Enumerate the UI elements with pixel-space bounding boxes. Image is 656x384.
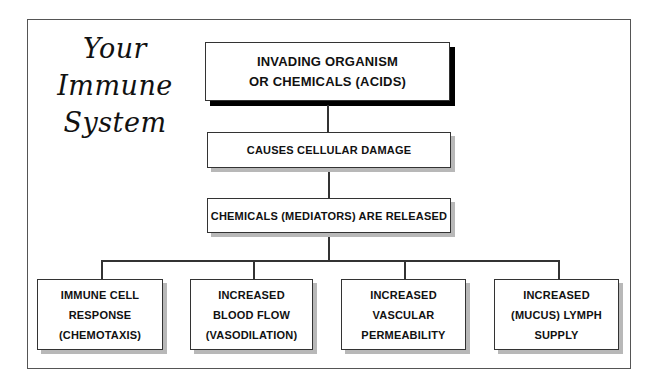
title-line: System (50, 104, 180, 141)
connector-line (404, 260, 406, 279)
outcome-box-vasodilation: INCREASED BLOOD FLOW (VASODILATION) (190, 279, 313, 350)
box-label-line: RESPONSE (69, 305, 132, 325)
outcome-box-lymph-supply: INCREASED (MUCUS) LYMPH SUPPLY (494, 279, 619, 350)
box-label-line: OR CHEMICALS (ACIDS) (249, 72, 406, 92)
box-label-line: INCREASED (218, 285, 285, 305)
invading-organism-box: INVADING ORGANISM OR CHEMICALS (ACIDS) (205, 42, 450, 101)
outcome-box-chemotaxis: IMMUNE CELL RESPONSE (CHEMOTAXIS) (37, 279, 163, 350)
diagram-title: Your Immune System (50, 30, 180, 141)
connector-line (327, 105, 329, 132)
cellular-damage-box: CAUSES CELLULAR DAMAGE (207, 132, 451, 168)
connector-line (328, 237, 330, 261)
box-label-line: SUPPLY (534, 325, 578, 345)
box-label: CAUSES CELLULAR DAMAGE (247, 140, 412, 160)
box-label-line: (MUCUS) LYMPH (511, 305, 602, 325)
box-label-line: INCREASED (370, 285, 437, 305)
title-line: Immune (50, 67, 180, 104)
connector-line (328, 172, 330, 198)
box-label-line: BLOOD FLOW (213, 305, 290, 325)
box-label-line: INVADING ORGANISM (249, 52, 406, 72)
branch-line (101, 260, 559, 262)
box-label-line: PERMEABILITY (361, 325, 445, 345)
box-label-line: (VASODILATION) (206, 325, 298, 345)
connector-line (558, 260, 560, 279)
box-label-line: (CHEMOTAXIS) (59, 325, 141, 345)
box-label: CHEMICALS (MEDIATORS) ARE RELEASED (211, 206, 447, 226)
title-line: Your (50, 30, 180, 67)
connector-line (101, 260, 103, 279)
box-label-line: INCREASED (523, 285, 590, 305)
outcome-box-permeability: INCREASED VASCULAR PERMEABILITY (341, 279, 466, 350)
mediators-released-box: CHEMICALS (MEDIATORS) ARE RELEASED (207, 198, 451, 233)
box-label-line: IMMUNE CELL (61, 285, 140, 305)
box-label-line: VASCULAR (373, 305, 435, 325)
connector-line (253, 260, 255, 279)
